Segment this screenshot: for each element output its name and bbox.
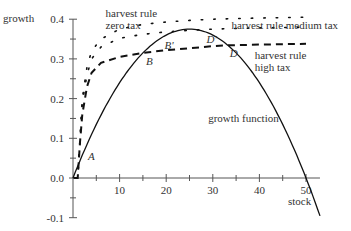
annotation: zero tax <box>106 19 142 31</box>
annotation: harvest rule <box>255 49 307 61</box>
series-lines <box>73 17 320 216</box>
y-tick-label: 0.1 <box>50 132 64 144</box>
x-tick-label: 30 <box>207 184 219 196</box>
x-axis-label: stock <box>288 195 312 207</box>
y-axis-label: growth <box>3 12 35 24</box>
point-label: D <box>229 47 238 59</box>
point-label: B <box>146 55 153 67</box>
annotation: growth function <box>208 112 279 124</box>
point-label: A <box>87 150 95 162</box>
y-tick-label: 0.4 <box>50 13 64 25</box>
annotation: harvest rule medium tax <box>231 19 338 31</box>
growth-harvest-chart: -0.10.00.10.20.30.41020304050 ABB'D'Dhar… <box>0 0 351 231</box>
point-label: B' <box>165 39 175 51</box>
x-tick-label: 20 <box>161 184 173 196</box>
point-label: D' <box>205 33 217 45</box>
y-tick-label: 0.3 <box>50 53 64 65</box>
x-tick-label: 40 <box>254 184 266 196</box>
annotation: harvest rule <box>106 7 158 19</box>
y-tick-label: -0.1 <box>47 212 64 224</box>
harvest-rule-zero-tax-line <box>74 17 306 178</box>
annotation: high tax <box>255 61 291 73</box>
x-tick-label: 10 <box>114 184 126 196</box>
y-tick-label: 0.2 <box>50 93 64 105</box>
y-tick-label: 0.0 <box>50 172 64 184</box>
annotations: ABB'D'Dharvest rulezero taxharvest rule … <box>87 7 338 162</box>
